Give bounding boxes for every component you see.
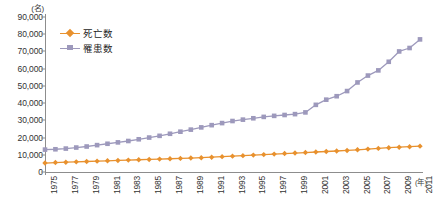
diamond-marker-icon — [219, 154, 224, 159]
legend-swatch-incidence — [60, 43, 80, 54]
x-axis-tick-labels: 1975197719791981198319851987198919911993… — [0, 172, 435, 217]
y-axis-tick-mark — [41, 68, 45, 69]
square-marker-icon — [366, 73, 371, 78]
square-marker-icon — [116, 140, 121, 145]
diamond-marker-icon — [313, 149, 318, 154]
y-axis-tick-mark — [41, 34, 45, 35]
y-axis-tick-mark — [41, 17, 45, 18]
x-axis-tick-label: 1983 — [132, 176, 142, 194]
x-axis-tick-label: 1999 — [299, 176, 309, 194]
square-marker-icon — [189, 127, 194, 132]
y-axis-tick-label: 80,000 — [0, 29, 43, 39]
square-marker-icon — [220, 121, 225, 126]
square-marker-icon — [407, 46, 412, 51]
y-axis-tick-mark — [41, 172, 45, 173]
legend-item-deaths: 死亡数 — [60, 27, 113, 39]
legend-swatch-deaths — [60, 28, 80, 39]
y-axis-tick-label: 60,000 — [0, 64, 43, 74]
diamond-marker-icon — [66, 28, 74, 36]
x-axis-tick-label: 1991 — [216, 176, 226, 194]
square-marker-icon — [345, 89, 350, 94]
x-axis-tick-label: 2001 — [320, 176, 330, 194]
diamond-marker-icon — [251, 152, 256, 157]
square-marker-icon — [386, 59, 391, 64]
square-marker-icon — [303, 110, 308, 115]
diamond-marker-icon — [146, 157, 151, 162]
y-axis-tick-label: 90,000 — [0, 12, 43, 22]
square-marker-icon — [355, 80, 360, 85]
diamond-marker-icon — [53, 160, 58, 165]
square-marker-icon — [209, 123, 214, 128]
diamond-marker-icon — [136, 157, 141, 162]
y-axis-tick-mark — [41, 137, 45, 138]
legend-item-incidence: 罹患数 — [60, 42, 113, 54]
square-marker-icon — [376, 68, 381, 73]
diamond-marker-icon — [178, 156, 183, 161]
square-marker-icon — [84, 144, 89, 149]
square-marker-icon — [74, 145, 79, 150]
y-axis-tick-label: 70,000 — [0, 46, 43, 56]
diamond-marker-icon — [209, 154, 214, 159]
diamond-marker-icon — [365, 146, 370, 151]
x-axis-tick-label: 1997 — [278, 176, 288, 194]
diamond-marker-icon — [63, 159, 68, 164]
diamond-marker-icon — [94, 158, 99, 163]
diamond-marker-icon — [105, 158, 110, 163]
chart-legend: 死亡数 罹患数 — [60, 27, 113, 54]
diamond-marker-icon — [199, 155, 204, 160]
square-marker-icon — [157, 134, 162, 139]
x-axis-tick-label: 2005 — [362, 176, 372, 194]
square-marker-icon — [43, 147, 48, 152]
x-axis-tick-label: 1977 — [70, 176, 80, 194]
x-axis-tick-label: 2009 — [403, 176, 413, 194]
square-marker-icon — [230, 119, 235, 124]
diamond-marker-icon — [74, 159, 79, 164]
diamond-marker-icon — [167, 156, 172, 161]
diamond-marker-icon — [126, 157, 131, 162]
square-marker-icon — [53, 147, 58, 152]
diamond-marker-icon — [417, 143, 422, 148]
y-axis-tick-label: 20,000 — [0, 133, 43, 143]
diamond-marker-icon — [407, 144, 412, 149]
legend-label-deaths: 死亡数 — [83, 26, 113, 40]
diamond-marker-icon — [115, 158, 120, 163]
diamond-marker-icon — [355, 147, 360, 152]
y-axis-tick-label: 40,000 — [0, 98, 43, 108]
square-marker-icon — [397, 49, 402, 54]
y-axis-tick-mark — [41, 120, 45, 121]
diamond-marker-icon — [344, 148, 349, 153]
y-axis-tick-label: 50,000 — [0, 81, 43, 91]
y-axis-tick-mark — [41, 85, 45, 86]
x-axis-tick-label: 1975 — [49, 176, 59, 194]
square-marker-icon — [126, 139, 131, 144]
square-marker-icon — [261, 115, 266, 120]
x-axis-tick-label: 1985 — [153, 176, 163, 194]
diamond-marker-icon — [157, 156, 162, 161]
x-axis-tick-label: 2007 — [382, 176, 392, 194]
diamond-marker-icon — [303, 150, 308, 155]
diamond-marker-icon — [292, 150, 297, 155]
y-axis-tick-mark — [41, 51, 45, 52]
square-marker-icon — [334, 94, 339, 99]
square-marker-icon — [67, 45, 73, 50]
y-axis-tick-label: 30,000 — [0, 115, 43, 125]
square-marker-icon — [199, 125, 204, 130]
x-axis-tick-label: 1979 — [91, 176, 101, 194]
diamond-marker-icon — [240, 153, 245, 158]
square-marker-icon — [105, 141, 110, 146]
diamond-marker-icon — [261, 152, 266, 157]
square-marker-icon — [95, 143, 100, 148]
x-axis-tick-label: 1989 — [195, 176, 205, 194]
y-axis-tick-mark — [41, 103, 45, 104]
diamond-marker-icon — [230, 153, 235, 158]
y-axis-tick-mark — [41, 154, 45, 155]
cancer-statistics-line-chart: (名) 010,00020,00030,00040,00050,00060,00… — [0, 0, 435, 217]
square-marker-icon — [241, 117, 246, 122]
diamond-marker-icon — [188, 155, 193, 160]
square-marker-icon — [272, 114, 277, 119]
square-marker-icon — [251, 116, 256, 121]
square-marker-icon — [324, 97, 329, 102]
y-axis-tick-label: 10,000 — [0, 150, 43, 160]
x-axis-tick-label: 1987 — [174, 176, 184, 194]
x-axis-unit-label: (年) — [415, 176, 427, 187]
